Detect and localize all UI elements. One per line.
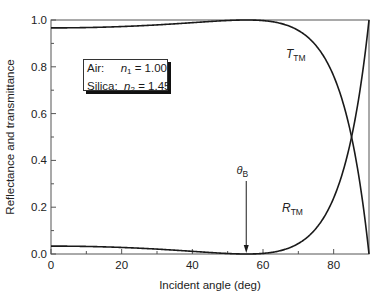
y-tick-label: 0.4 bbox=[31, 154, 48, 166]
x-tick-label: 20 bbox=[115, 259, 128, 271]
legend-row-air: Air: n1 = 1.00 bbox=[87, 61, 167, 79]
plot-frame bbox=[51, 20, 369, 254]
x-axis-title: Incident angle (deg) bbox=[159, 279, 261, 291]
legend-equation: n1 = 1.00 bbox=[114, 61, 167, 79]
arrow-down-icon bbox=[244, 245, 249, 253]
annotations: RTMTTMθB bbox=[236, 47, 305, 253]
legend-subscript: 2 bbox=[130, 85, 134, 94]
y-axis-title: Reflectance and transmittance bbox=[4, 59, 16, 214]
legend-box: Air: n1 = 1.00 Silica: n2 = 1.45 bbox=[83, 59, 168, 91]
y-tick-label: 0.0 bbox=[31, 248, 47, 260]
y-tick-label: 0.6 bbox=[31, 108, 47, 120]
legend-row-silica: Silica: n2 = 1.45 bbox=[87, 79, 167, 97]
legend-equation: n2 = 1.45 bbox=[118, 79, 171, 97]
t-tm-label: TTM bbox=[286, 47, 306, 63]
x-tick-label: 60 bbox=[257, 259, 270, 271]
legend-medium: Silica: bbox=[87, 79, 118, 97]
y-tick-label: 0.8 bbox=[31, 61, 47, 73]
x-tick-label: 80 bbox=[327, 259, 340, 271]
x-tick-label: 0 bbox=[48, 259, 54, 271]
legend-medium: Air: bbox=[87, 61, 114, 79]
brewster-angle-label: θB bbox=[236, 164, 248, 179]
legend-value: = 1.45 bbox=[138, 80, 170, 92]
plot-area-border bbox=[51, 20, 369, 254]
legend-subscript: 1 bbox=[127, 67, 131, 76]
y-tick-label: 1.0 bbox=[31, 14, 47, 26]
legend-value: = 1.00 bbox=[135, 62, 167, 74]
reflectance-transmittance-chart: 0204060800.00.20.40.60.81.0 RTMTTMθB Inc… bbox=[0, 0, 381, 300]
r-tm-label: RTM bbox=[282, 201, 303, 217]
r-tm-curve bbox=[51, 20, 369, 254]
data-curves bbox=[51, 20, 369, 254]
y-tick-label: 0.2 bbox=[31, 201, 47, 213]
x-tick-label: 40 bbox=[186, 259, 199, 271]
t-tm-curve bbox=[51, 20, 369, 254]
